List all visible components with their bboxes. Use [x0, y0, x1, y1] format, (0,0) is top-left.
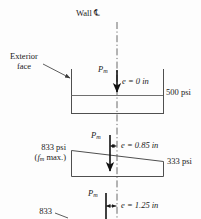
exterior-face-leader [43, 64, 70, 78]
section-eccentric-085-right-stress-label: 333 psi [167, 157, 192, 167]
exterior-face-label: Exterior face [2, 52, 46, 71]
section-uniform-load-symbol: Pm [98, 65, 108, 75]
load-subscript-m: m [103, 67, 107, 74]
section-eccentric-125-left-stress-label: 833 [16, 207, 52, 217]
section-eccentric-085-left-stress-label: 833 psi (fm max.) [14, 143, 66, 163]
section-eccentric-085-eccentricity-label: e = 0.85 in [121, 141, 158, 151]
stress-distribution-figure: Wall ℄ Exterior face Pm e = 0 in 500 psi… [0, 0, 201, 219]
section-eccentric-125-load-symbol: Pm [88, 189, 98, 199]
centerline-symbol-icon: ℄ [94, 8, 100, 18]
section-eccentric-125-geometry [55, 193, 117, 219]
section-uniform-eccentricity-label: e = 0 in [122, 77, 149, 87]
wall-title-text: Wall [76, 8, 92, 18]
wall-centerline-title: Wall ℄ [76, 8, 100, 19]
left-stress-note: (fm max.) [14, 153, 66, 163]
note-max-text: max.) [44, 152, 66, 162]
load-subscript-m: m [93, 191, 97, 198]
section-eccentric-125-eccentricity-label: e = 1.25 in [121, 201, 158, 211]
section-uniform-right-stress-label: 500 psi [166, 88, 191, 98]
section-eccentric-085-load-symbol: Pm [91, 131, 101, 141]
exterior-face-line2: face [2, 62, 46, 72]
diagram-vector-layer [0, 0, 201, 219]
load-subscript-m: m [96, 133, 100, 140]
